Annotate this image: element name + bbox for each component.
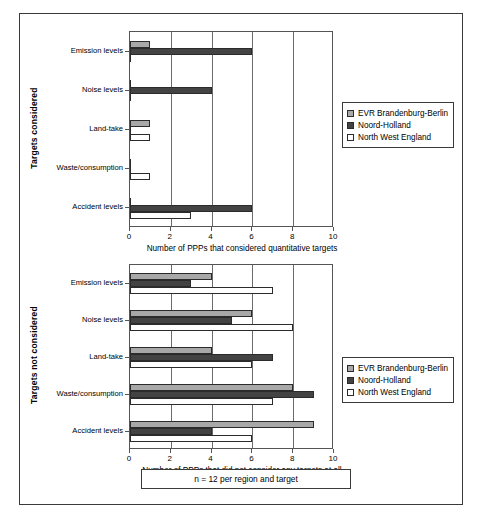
- legend-swatch-noord-holland-icon: [347, 122, 354, 129]
- legend-label: Noord-Holland: [358, 121, 411, 130]
- x-axis-tick: [251, 227, 252, 231]
- x-axis-tick-label: 4: [201, 454, 221, 464]
- x-axis-tick-label: 6: [241, 232, 261, 242]
- legend-swatch-north-west-england-icon: [347, 134, 354, 141]
- x-axis-tick-label: 8: [282, 232, 302, 242]
- bar-group: [130, 41, 332, 62]
- y-axis-tick: [125, 431, 129, 432]
- bar: [130, 435, 252, 442]
- bar: [130, 80, 131, 87]
- x-axis-tick-label: 8: [282, 454, 302, 464]
- bar-group: [130, 310, 332, 331]
- x-axis-tick: [170, 227, 171, 231]
- legend-row: Noord-Holland: [347, 119, 448, 131]
- bar: [130, 134, 150, 141]
- legend-top: EVR Brandenburg-BerlinNoord-HollandNorth…: [342, 102, 454, 148]
- bar: [130, 212, 191, 219]
- x-axis-tick-label: 2: [160, 232, 180, 242]
- y-axis-title-top: Targets considered: [29, 33, 39, 223]
- y-axis-tick: [125, 283, 129, 284]
- bar-group: [130, 80, 332, 101]
- y-axis-category-label: Waste/consumption: [57, 389, 123, 398]
- bar: [130, 94, 131, 101]
- legend-bottom: EVR Brandenburg-BerlinNoord-HollandNorth…: [342, 357, 454, 403]
- y-axis-tick: [125, 168, 129, 169]
- y-axis-category-label: Noise levels: [82, 85, 123, 94]
- y-axis-tick: [125, 394, 129, 395]
- y-axis-tick: [125, 357, 129, 358]
- x-axis-tick: [129, 449, 130, 453]
- y-axis-category-label: Noise levels: [82, 315, 123, 324]
- bar: [130, 280, 191, 287]
- bar: [130, 87, 212, 94]
- bar-group: [130, 347, 332, 368]
- bar: [130, 421, 314, 428]
- bar-group: [130, 421, 332, 442]
- y-axis-category-label: Emission levels: [71, 46, 123, 55]
- x-axis-tick: [292, 227, 293, 231]
- bar-group: [130, 198, 332, 219]
- bar: [130, 127, 131, 134]
- legend-label: North West England: [358, 133, 431, 142]
- bar: [130, 384, 293, 391]
- x-axis-tick: [292, 449, 293, 453]
- bar: [130, 48, 252, 55]
- bar: [130, 55, 131, 62]
- y-axis-tick: [125, 129, 129, 130]
- legend-row: EVR Brandenburg-Berlin: [347, 107, 448, 119]
- y-axis-category-label: Land-take: [89, 352, 123, 361]
- bar: [130, 347, 212, 354]
- bar: [130, 361, 252, 368]
- bar: [130, 324, 293, 331]
- y-axis-tick: [125, 320, 129, 321]
- y-axis-category-label: Accident levels: [72, 426, 123, 435]
- legend-label: EVR Brandenburg-Berlin: [358, 109, 448, 118]
- y-axis-title-bottom: Targets not considered: [29, 260, 39, 450]
- x-axis-tick-label: 10: [323, 454, 343, 464]
- x-axis-tick-label: 2: [160, 454, 180, 464]
- bar: [130, 428, 212, 435]
- x-axis-tick-label: 6: [241, 454, 261, 464]
- x-axis-title-top: Number of PPPs that considered quantitat…: [20, 244, 464, 253]
- bar-group: [130, 159, 332, 180]
- plot-area-top: [129, 31, 333, 227]
- bar: [130, 120, 150, 127]
- legend-row: Noord-Holland: [347, 374, 448, 386]
- y-axis-tick: [125, 51, 129, 52]
- bar: [130, 205, 252, 212]
- legend-row: EVR Brandenburg-Berlin: [347, 362, 448, 374]
- y-axis-category-label: Waste/consumption: [57, 163, 123, 172]
- bar: [130, 198, 131, 205]
- legend-label: North West England: [358, 388, 431, 397]
- x-axis-tick: [211, 227, 212, 231]
- legend-swatch-north-west-england-icon: [347, 389, 354, 396]
- x-axis-tick-label: 0: [119, 454, 139, 464]
- x-axis-tick-label: 4: [201, 232, 221, 242]
- bar-group: [130, 384, 332, 405]
- legend-swatch-evr-icon: [347, 365, 354, 372]
- bar: [130, 317, 232, 324]
- y-axis-category-label: Accident levels: [72, 202, 123, 211]
- bar: [130, 166, 131, 173]
- footnote-sample-size: n = 12 per region and target: [141, 469, 351, 489]
- bar: [130, 391, 314, 398]
- bar-group: [130, 120, 332, 141]
- bar: [130, 173, 150, 180]
- x-axis-tick: [333, 449, 334, 453]
- bar: [130, 287, 273, 294]
- x-axis-tick: [170, 449, 171, 453]
- bar: [130, 273, 212, 280]
- x-axis-tick-label: 10: [323, 232, 343, 242]
- y-axis-tick: [125, 90, 129, 91]
- y-axis-category-label: Emission levels: [71, 278, 123, 287]
- x-axis-tick: [251, 449, 252, 453]
- legend-swatch-evr-icon: [347, 110, 354, 117]
- bar: [130, 159, 131, 166]
- bar: [130, 41, 150, 48]
- legend-label: EVR Brandenburg-Berlin: [358, 364, 448, 373]
- legend-swatch-noord-holland-icon: [347, 377, 354, 384]
- bar-group: [130, 273, 332, 294]
- bar: [130, 398, 273, 405]
- x-axis-tick: [211, 449, 212, 453]
- bar: [130, 354, 273, 361]
